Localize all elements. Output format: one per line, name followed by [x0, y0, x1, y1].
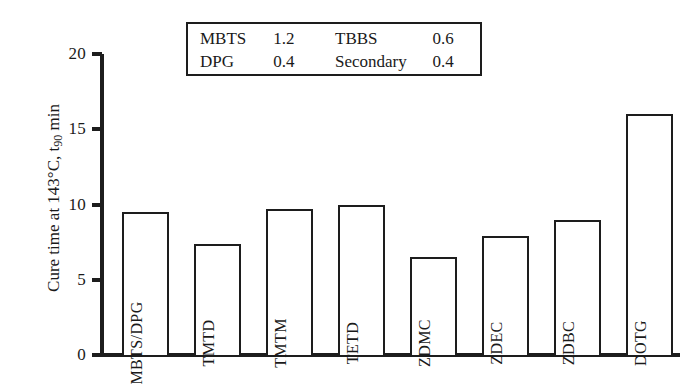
legend-value-4: 0.4 — [433, 50, 471, 73]
y-tick-label-10: 10 — [46, 196, 86, 213]
bar-label: TMTM — [273, 318, 289, 368]
legend-value-3: 0.4 — [273, 50, 335, 73]
bar-tmtd: TMTD — [194, 244, 241, 357]
y-tick-label-0: 0 — [46, 346, 86, 363]
bar-label: MBTS/DPG — [129, 301, 145, 384]
bar-label: ZDBC — [561, 321, 577, 365]
legend-row: DPG 0.4 Secondary 0.4 — [200, 50, 470, 73]
legend-name-4: Secondary — [335, 50, 433, 73]
bar-dotg: DOTG — [626, 114, 673, 357]
bar-zdbc: ZDBC — [554, 220, 601, 357]
y-tick-15 — [92, 127, 102, 131]
bar-mbts-dpg: MBTS/DPG — [122, 212, 169, 357]
bar-tetd: TETD — [338, 205, 385, 358]
bar-label: TETD — [345, 322, 361, 364]
bar-zdmc: ZDMC — [410, 257, 457, 357]
bar-label: ZDMC — [417, 319, 433, 367]
bar-label: ZDEC — [489, 321, 505, 364]
bar-tmtm: TMTM — [266, 209, 313, 357]
y-tick-label-20: 20 — [46, 45, 86, 62]
y-tick-label-5: 5 — [46, 271, 86, 288]
legend-value-2: 0.6 — [433, 27, 471, 50]
bar-zdec: ZDEC — [482, 236, 529, 357]
y-tick-10 — [92, 203, 102, 207]
y-tick-5 — [92, 278, 102, 282]
bar-label: TMTD — [201, 320, 217, 367]
y-tick-0 — [92, 353, 102, 357]
legend-name-3: DPG — [200, 50, 273, 73]
bar-chart: Cure time at 143°C, t90 min 05101520 MBT… — [0, 0, 700, 384]
bar-label: DOTG — [633, 320, 649, 366]
legend-name-1: MBTS — [200, 27, 273, 50]
legend-name-2: TBBS — [335, 27, 433, 50]
legend-box: MBTS 1.2 TBBS 0.6 DPG 0.4 Secondary 0.4 — [186, 22, 482, 76]
y-tick-label-15: 15 — [46, 120, 86, 137]
y-tick-20 — [92, 52, 102, 56]
legend-value-1: 1.2 — [273, 27, 335, 50]
legend-row: MBTS 1.2 TBBS 0.6 — [200, 27, 470, 50]
